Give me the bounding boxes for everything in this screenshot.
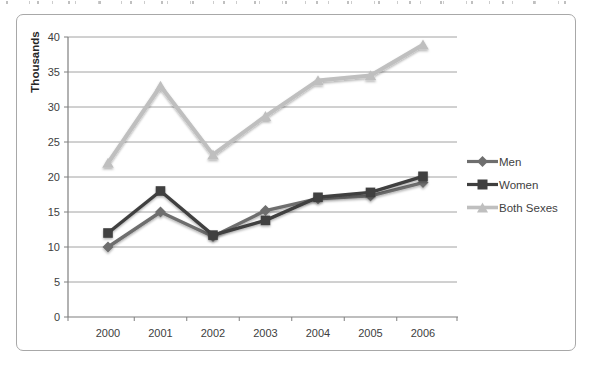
svg-text:35: 35 <box>48 66 60 78</box>
svg-text:10: 10 <box>48 241 60 253</box>
chart-legend: Men Women Both Sexes <box>467 153 558 216</box>
axes <box>68 37 458 321</box>
svg-text:2000: 2000 <box>96 327 120 339</box>
legend-label-both-sexes: Both Sexes <box>499 202 558 214</box>
men-series-key-icon <box>467 155 498 168</box>
legend-item-men: Men <box>467 153 558 170</box>
svg-text:2005: 2005 <box>358 327 382 339</box>
svg-text:25: 25 <box>48 136 60 148</box>
chart-screenshot: 0510152025303540200020012002200320042005… <box>0 0 593 370</box>
legend-label-women: Women <box>499 179 538 191</box>
svg-text:2003: 2003 <box>253 327 277 339</box>
svg-text:2001: 2001 <box>148 327 172 339</box>
svg-text:40: 40 <box>48 31 60 43</box>
svg-text:2004: 2004 <box>306 327 330 339</box>
y-axis-title: Thousands <box>29 31 41 92</box>
svg-text:15: 15 <box>48 206 60 218</box>
women-series-key-icon <box>467 178 498 191</box>
svg-text:0: 0 <box>54 311 60 323</box>
svg-text:30: 30 <box>48 101 60 113</box>
svg-text:20: 20 <box>48 171 60 183</box>
y-axis-ticks-labels: 0510152025303540 <box>48 31 68 323</box>
svg-text:2002: 2002 <box>201 327 225 339</box>
legend-label-men: Men <box>499 156 521 168</box>
series-both-sexes <box>102 40 429 168</box>
x-axis-labels: 2000200120022003200420052006 <box>96 327 435 339</box>
y-gridlines <box>68 37 457 282</box>
svg-text:5: 5 <box>54 276 60 288</box>
legend-item-both-sexes: Both Sexes <box>467 199 558 216</box>
svg-text:2006: 2006 <box>411 327 435 339</box>
legend-item-women: Women <box>467 176 558 193</box>
both-sexes-series-key-icon <box>467 201 498 214</box>
